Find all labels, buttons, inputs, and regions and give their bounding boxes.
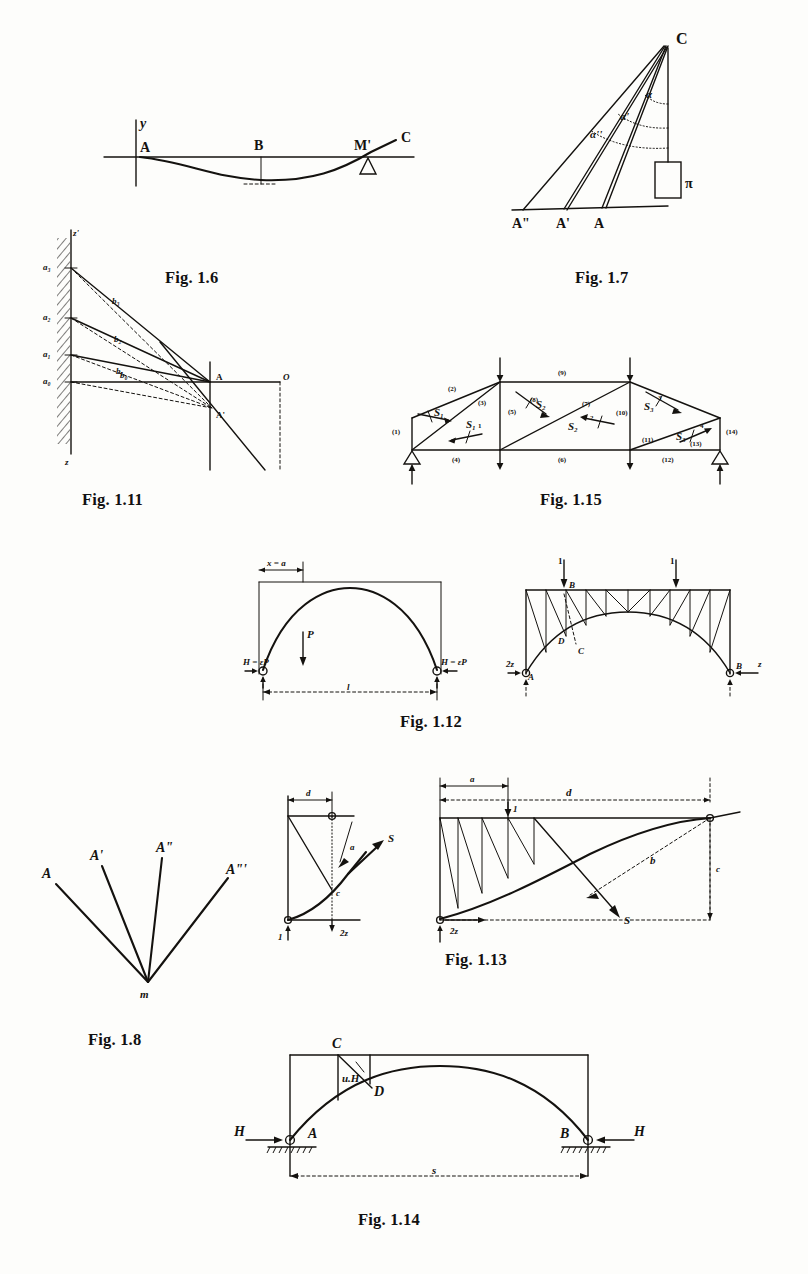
fig12l-label-load-p: P bbox=[307, 628, 314, 640]
fig13-label-load-1: 1 bbox=[513, 804, 518, 814]
fig16-label-b: B bbox=[254, 138, 263, 153]
fig13i-reaction-2z bbox=[329, 920, 335, 932]
fig15-member-3: (3) bbox=[478, 399, 487, 407]
fig13-load-1 bbox=[505, 802, 512, 817]
fig14-label-support-a: A bbox=[307, 1126, 317, 1141]
fig17-label-alpha-prime: α' bbox=[620, 110, 629, 122]
fig18-ray-3 bbox=[148, 858, 162, 982]
fig16-label-m-prime: M' bbox=[354, 138, 371, 153]
fig14-label-span-s: s bbox=[431, 1164, 436, 1176]
fig14-label-c: C bbox=[332, 1036, 342, 1051]
fig11-label-point-a-prime: A' bbox=[216, 410, 225, 420]
fig11-oblique-line bbox=[160, 342, 265, 470]
figure-1-8: A A' A" A"' m bbox=[40, 830, 270, 1010]
fig17-label-base-a-prime: A' bbox=[556, 216, 570, 231]
fig12r-label-support-a: A bbox=[527, 672, 534, 682]
fig14-label-thrust-right: H bbox=[633, 1124, 646, 1139]
fig15-force-label-s2-top: S₂ bbox=[536, 398, 546, 410]
fig11-label-z-prime: z' bbox=[72, 228, 80, 238]
fig13i-label-s: S bbox=[388, 832, 394, 844]
fig17-label-c: C bbox=[676, 30, 688, 47]
fig15-reaction-right bbox=[717, 464, 724, 484]
fig14-span-dimension bbox=[290, 1173, 588, 1179]
fig13-dim-d bbox=[440, 778, 710, 802]
fig15-member-11: (11) bbox=[642, 436, 654, 444]
fig18-label-origin-m: m bbox=[140, 988, 149, 1000]
fig12l-thrust-left bbox=[245, 668, 258, 674]
fig14-label-d: D bbox=[373, 1084, 384, 1099]
fig13-label-reaction-2z: 2z bbox=[449, 926, 459, 936]
fig12l-thrust-right bbox=[442, 668, 457, 674]
fig15-support-left bbox=[404, 451, 420, 464]
fig13i-label-load-1: 1 bbox=[278, 932, 283, 942]
figure-1-7: C α α' α'' π A A' A" bbox=[498, 28, 748, 248]
fig11-ray-b2 bbox=[71, 318, 210, 382]
caption-fig-1-14: Fig. 1.14 bbox=[358, 1210, 420, 1230]
fig17-label-base-a: A bbox=[594, 216, 605, 231]
fig14-label-support-b: B bbox=[559, 1126, 569, 1141]
caption-fig-1-11: Fig. 1.11 bbox=[82, 490, 143, 510]
fig13i-load-1 bbox=[285, 925, 291, 940]
fig13-spandrel-posts bbox=[458, 818, 534, 908]
figure-1-13-inset: d a S c 1 2z bbox=[262, 778, 412, 943]
caption-fig-1-8: Fig. 1.8 bbox=[88, 1030, 141, 1050]
fig15-member-6: (6) bbox=[558, 456, 567, 464]
fig13i-label-a: a bbox=[350, 842, 355, 852]
fig17-label-pi: π bbox=[685, 176, 693, 191]
fig16-roller-support bbox=[360, 158, 376, 174]
fig11-label-point-o: O bbox=[283, 372, 290, 382]
fig12r-label-node-d: D bbox=[557, 636, 565, 646]
fig15-force-label-s2-bottom: S₂ bbox=[568, 420, 578, 432]
caption-fig-1-7: Fig. 1.7 bbox=[575, 268, 628, 288]
fig18-ray-1 bbox=[56, 884, 148, 982]
caption-fig-1-15: Fig. 1.15 bbox=[540, 490, 602, 510]
fig13-label-lever-b: b bbox=[650, 854, 656, 866]
fig15-load-bottom-right bbox=[627, 450, 634, 470]
fig13-label-dim-c: c bbox=[716, 864, 720, 874]
fig12r-arch-curve bbox=[526, 612, 730, 673]
fig15-member-5: (5) bbox=[508, 408, 517, 416]
fig11-label-a3: a₃ bbox=[43, 262, 51, 272]
fig15-force-label-s3-top: S₃ bbox=[644, 400, 654, 412]
fig13-reaction-vertical bbox=[437, 925, 443, 942]
fig15-diagonal-2 bbox=[500, 382, 630, 450]
figure-1-15: (1) (2) (3) (4) (5) (6) (7) (8) (9) (10)… bbox=[390, 358, 790, 488]
fig13i-label-2z: 2z bbox=[339, 928, 349, 938]
fig11-label-z: z bbox=[64, 457, 69, 467]
fig18-ray-2 bbox=[102, 866, 148, 982]
fig12l-label-dim-x-a: x = a bbox=[266, 558, 286, 568]
fig14-label-thrust-left: H bbox=[233, 1124, 246, 1139]
fig11-label-point-a: A bbox=[216, 372, 223, 382]
caption-fig-1-13: Fig. 1.13 bbox=[445, 950, 507, 970]
fig15-support-right bbox=[712, 451, 728, 464]
fig15-reaction-left bbox=[409, 464, 416, 484]
fig13-arch-curve bbox=[440, 818, 710, 919]
fig15-member-7: (7) bbox=[582, 400, 591, 408]
fig13-force-s bbox=[534, 818, 620, 918]
fig12l-label-thrust-right: H = εP bbox=[440, 657, 467, 667]
fig15-tick-1: 1 bbox=[478, 422, 482, 430]
fig13-label-dim-d: d bbox=[566, 786, 572, 798]
fig15-load-top-left bbox=[497, 358, 504, 382]
fig15-member-4: (4) bbox=[452, 456, 461, 464]
fig12l-arch-curve bbox=[263, 588, 437, 670]
fig17-weight-block bbox=[655, 162, 681, 198]
fig15-tick-2: 2 bbox=[590, 414, 594, 422]
fig13i-label-d: d bbox=[306, 788, 311, 798]
fig15-tick-3: 3 bbox=[658, 394, 662, 402]
fig12r-label-load-right: 1 bbox=[670, 556, 675, 566]
fig15-member-2: (2) bbox=[448, 385, 457, 393]
figure-1-13-main: a d c 1 b S 2z bbox=[420, 772, 770, 947]
fig12r-label-thrust-right: z bbox=[757, 659, 762, 669]
fig15-diagonal-3 bbox=[630, 418, 720, 450]
fig13-label-force-s: S bbox=[624, 914, 630, 926]
fig14-thrust-right bbox=[596, 1137, 634, 1144]
fig15-force-s1-bottom bbox=[448, 431, 482, 444]
fig11-label-a1: a₁ bbox=[43, 349, 51, 359]
figure-1-12-right: 1 1 B D C A B 2z z bbox=[508, 552, 773, 702]
fig14-perpendicular-tick bbox=[356, 1062, 364, 1072]
fig13i-arch-chord bbox=[288, 852, 366, 920]
fig13-dim-a bbox=[440, 778, 508, 820]
fig13-top-chord-extension bbox=[710, 812, 740, 818]
fig14-label-moment-arm: u.H bbox=[342, 1072, 360, 1084]
